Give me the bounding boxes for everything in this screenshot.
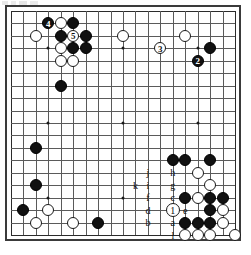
star-point xyxy=(122,47,125,50)
grid-line-horizontal xyxy=(11,185,235,186)
white-stone[interactable] xyxy=(30,30,42,42)
white-stone[interactable] xyxy=(229,229,241,241)
white-stone[interactable] xyxy=(42,204,54,216)
point-letter-label: c xyxy=(171,193,175,203)
white-stone[interactable] xyxy=(67,217,79,229)
star-point xyxy=(47,196,50,199)
star-point xyxy=(196,47,199,50)
go-board[interactable]: 2345jhkigfcd1ebal xyxy=(5,5,241,241)
black-stone[interactable] xyxy=(204,192,216,204)
black-stone[interactable] xyxy=(204,217,216,229)
point-letter-label: j xyxy=(146,168,149,178)
star-point xyxy=(47,47,50,50)
black-stone[interactable] xyxy=(204,204,216,216)
black-stone[interactable] xyxy=(30,142,42,154)
black-stone[interactable] xyxy=(67,17,79,29)
white-stone[interactable] xyxy=(192,192,204,204)
move-number-marker: 3 xyxy=(158,44,163,53)
black-stone[interactable] xyxy=(30,179,42,191)
point-letter-label: l xyxy=(171,231,174,241)
white-stone[interactable] xyxy=(67,55,79,67)
grid-line-horizontal xyxy=(11,135,235,136)
white-stone[interactable] xyxy=(179,30,191,42)
move-number-marker: 2 xyxy=(195,57,200,66)
white-stone[interactable] xyxy=(192,229,204,241)
point-letter-label: g xyxy=(170,181,175,191)
white-stone[interactable] xyxy=(217,204,229,216)
black-stone[interactable] xyxy=(167,154,179,166)
white-stone[interactable] xyxy=(217,217,229,229)
white-stone[interactable] xyxy=(55,55,67,67)
grid-line-vertical xyxy=(135,11,136,235)
star-point xyxy=(47,122,50,125)
black-stone[interactable] xyxy=(179,217,191,229)
point-letter-label: 1 xyxy=(170,206,175,216)
star-point xyxy=(122,196,125,199)
white-stone[interactable] xyxy=(55,17,67,29)
point-letter-label: e xyxy=(183,206,187,216)
black-stone[interactable] xyxy=(204,154,216,166)
black-stone[interactable] xyxy=(217,192,229,204)
black-stone[interactable] xyxy=(67,42,79,54)
white-stone[interactable] xyxy=(55,42,67,54)
white-stone[interactable] xyxy=(204,179,216,191)
point-letter-label: h xyxy=(170,168,175,178)
black-stone[interactable] xyxy=(204,42,216,54)
move-number-marker: 5 xyxy=(71,32,76,41)
star-point xyxy=(196,122,199,125)
grid-line-horizontal xyxy=(11,160,235,161)
black-stone[interactable] xyxy=(80,30,92,42)
star-point xyxy=(122,122,125,125)
white-stone[interactable] xyxy=(30,217,42,229)
white-stone[interactable] xyxy=(204,229,216,241)
point-letter-label: b xyxy=(145,218,150,228)
white-stone[interactable] xyxy=(192,167,204,179)
black-stone[interactable] xyxy=(17,204,29,216)
point-letter-label: k xyxy=(133,181,138,191)
black-stone[interactable] xyxy=(92,217,104,229)
point-letter-label: d xyxy=(145,206,150,216)
point-letter-label: a xyxy=(171,218,175,228)
black-stone[interactable] xyxy=(80,42,92,54)
white-stone[interactable] xyxy=(117,30,129,42)
black-stone[interactable] xyxy=(179,154,191,166)
grid-line-horizontal xyxy=(11,148,235,149)
black-stone[interactable] xyxy=(192,217,204,229)
go-diagram: 2345jhkigfcd1ebal xyxy=(0,0,251,255)
grid-line-vertical xyxy=(235,11,236,235)
white-stone[interactable] xyxy=(179,229,191,241)
point-letter-label: f xyxy=(146,193,149,203)
point-letter-label: i xyxy=(146,181,149,191)
move-number-marker: 4 xyxy=(46,19,51,28)
black-stone[interactable] xyxy=(55,80,67,92)
black-stone[interactable] xyxy=(179,192,191,204)
black-stone[interactable] xyxy=(55,30,67,42)
